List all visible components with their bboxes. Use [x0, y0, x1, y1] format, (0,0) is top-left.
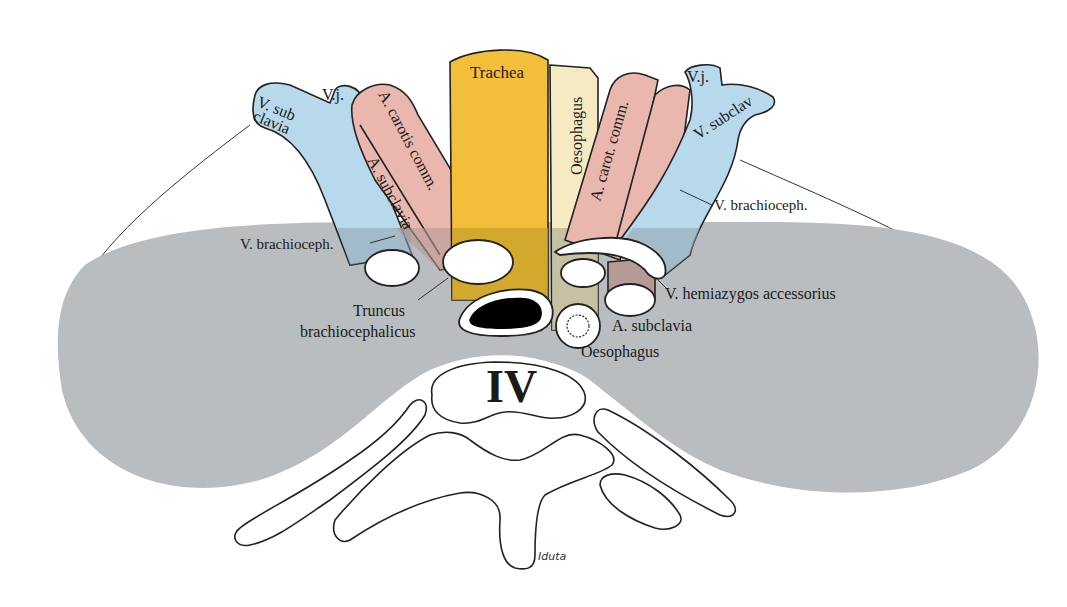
- label-truncus-2: brachiocephalicus: [300, 323, 416, 341]
- label-v-hemiazygos: V. hemiazygos accessorius: [665, 285, 836, 303]
- label-right-v-brachioceph: V. brachioceph.: [714, 197, 807, 213]
- left-vein-section: [365, 250, 419, 286]
- right-subclavia-section: [605, 284, 655, 316]
- right-carotid-section: [561, 259, 605, 287]
- label-right-vj: V.j.: [687, 68, 709, 86]
- oesophagus-lumen: [567, 315, 589, 337]
- label-trachea: Trachea: [470, 63, 525, 82]
- label-oesophagus-lower: Oesophagus: [581, 343, 659, 361]
- anatomy-diagram: Trachea Oesophagus V. sub clavia V.j. A.…: [0, 0, 1067, 607]
- label-oesophagus-vertical: Oesophagus: [568, 97, 586, 175]
- label-left-vj: V.j.: [322, 86, 344, 104]
- label-left-v-brachioceph: V. brachioceph.: [240, 236, 333, 252]
- label-a-subclavia-lower: A. subclavia: [612, 317, 692, 334]
- label-vertebra: IV: [486, 361, 537, 412]
- artist-signature: Iduta: [538, 550, 567, 563]
- truncus-section: [443, 240, 513, 284]
- label-truncus-1: Truncus: [353, 302, 405, 319]
